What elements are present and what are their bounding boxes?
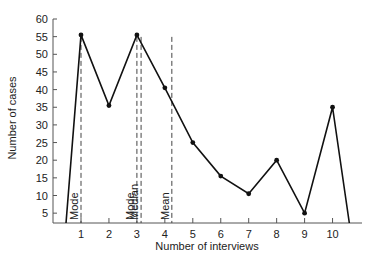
data-point <box>190 140 195 145</box>
chart: 5101520253035404550556012345678910 ModeM… <box>0 0 384 262</box>
data-point <box>218 174 223 179</box>
data-point <box>79 32 84 37</box>
x-tick-label: 1 <box>78 228 84 240</box>
x-tick-label: 6 <box>218 228 224 240</box>
data-point <box>274 158 279 163</box>
data-point <box>302 211 307 216</box>
y-tick-label: 30 <box>36 119 48 131</box>
y-tick-label: 55 <box>36 31 48 43</box>
x-tick-label: 3 <box>134 228 140 240</box>
x-tick-label: 5 <box>190 228 196 240</box>
annotation-label: Mode <box>68 192 80 220</box>
y-tick-label: 40 <box>36 84 48 96</box>
data-point <box>135 32 140 37</box>
data-series <box>66 32 349 223</box>
y-tick-label: 35 <box>36 101 48 113</box>
y-tick-label: 10 <box>36 190 48 202</box>
y-tick-label: 15 <box>36 172 48 184</box>
axes: 5101520253035404550556012345678910 <box>36 13 362 240</box>
x-tick-label: 2 <box>106 228 112 240</box>
x-tick-label: 8 <box>274 228 280 240</box>
y-tick-label: 20 <box>36 154 48 166</box>
x-axis-label: Number of interviews <box>155 240 259 252</box>
data-point <box>107 103 112 108</box>
y-tick-label: 25 <box>36 137 48 149</box>
y-axis-label: Number of cases <box>6 76 18 160</box>
data-point <box>162 85 167 90</box>
data-point <box>330 105 335 110</box>
y-tick-label: 5 <box>42 207 48 219</box>
x-tick-label: 7 <box>246 228 252 240</box>
y-tick-label: 60 <box>36 13 48 25</box>
x-tick-label: 10 <box>326 228 338 240</box>
annotation-label: Mean <box>159 192 171 220</box>
data-point <box>246 191 251 196</box>
annotation-label: Median <box>128 184 140 220</box>
y-tick-label: 50 <box>36 48 48 60</box>
annotations: ModeModeMedianMean <box>68 37 172 223</box>
x-tick-label: 4 <box>162 228 168 240</box>
y-tick-label: 45 <box>36 66 48 78</box>
x-tick-label: 9 <box>302 228 308 240</box>
data-line <box>66 35 349 223</box>
